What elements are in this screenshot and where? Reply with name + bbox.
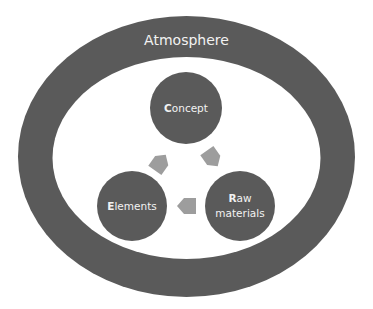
raw-materials-circle <box>205 171 275 241</box>
concept-label: Concept <box>164 102 208 114</box>
elements-initial: E <box>107 200 114 212</box>
cycle-diagram: Atmosphere Concept Raw materials Element… <box>0 0 373 309</box>
node-raw-materials: Raw materials <box>205 171 275 241</box>
raw-materials-initial: R <box>228 192 236 204</box>
raw-materials-rest: aw <box>237 192 252 204</box>
raw-materials-label-line1: Raw <box>228 192 252 204</box>
node-concept: Concept <box>150 72 222 144</box>
node-elements: Elements <box>97 171 167 241</box>
raw-materials-label-line2: materials <box>215 207 264 219</box>
concept-rest: oncept <box>172 102 208 114</box>
elements-label: Elements <box>107 200 157 212</box>
elements-rest: lements <box>114 200 156 212</box>
atmosphere-label: Atmosphere <box>144 32 229 48</box>
